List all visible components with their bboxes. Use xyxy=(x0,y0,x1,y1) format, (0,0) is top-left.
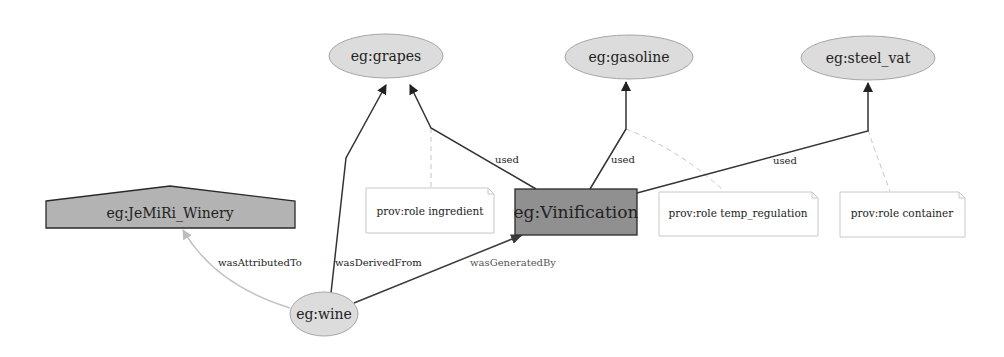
node-label-vinification: eg:Vinification xyxy=(514,202,639,222)
edge-label-was-attributed-to: wasAttributedTo xyxy=(218,257,302,268)
provenance-diagram: used used used wasDerivedFrom wasGenerat… xyxy=(0,0,1004,357)
edge-label-was-generated-by: wasGeneratedBy xyxy=(470,257,556,268)
note-temp-regulation: prov:role temp_regulation xyxy=(659,192,818,236)
edge-label-used-gasoline: used xyxy=(611,154,635,165)
node-label-gasoline: eg:gasoline xyxy=(588,49,669,65)
node-label-steel-vat: eg:steel_vat xyxy=(826,50,911,67)
node-vinification[interactable]: eg:Vinification xyxy=(514,189,639,235)
edge-used-grapes[interactable] xyxy=(410,85,536,189)
edge-label-used-steel-vat: used xyxy=(773,155,797,166)
node-steel-vat[interactable]: eg:steel_vat xyxy=(801,36,935,80)
note-label-ingredient: prov:role ingredient xyxy=(376,205,484,217)
edge-label-was-derived-from: wasDerivedFrom xyxy=(335,257,422,268)
note-ingredient: prov:role ingredient xyxy=(366,188,494,233)
edge-was-attributed-to[interactable] xyxy=(183,230,290,308)
edge-used-gasoline[interactable] xyxy=(590,82,626,189)
node-label-winery: eg:JeMiRi_Winery xyxy=(106,205,233,222)
note-connector-temp-regulation xyxy=(626,129,724,191)
node-gasoline[interactable]: eg:gasoline xyxy=(565,35,693,79)
edge-used-steel-vat[interactable] xyxy=(637,83,868,193)
note-label-container: prov:role container xyxy=(851,207,955,219)
node-wine[interactable]: eg:wine xyxy=(290,292,358,336)
node-winery[interactable]: eg:JeMiRi_Winery xyxy=(46,186,295,228)
note-container: prov:role container xyxy=(840,192,965,237)
edge-was-generated-by[interactable] xyxy=(354,235,522,303)
node-grapes[interactable]: eg:grapes xyxy=(329,34,443,78)
note-connector-container xyxy=(868,130,890,191)
note-label-temp-regulation: prov:role temp_regulation xyxy=(668,207,807,220)
node-label-grapes: eg:grapes xyxy=(351,48,421,64)
edge-label-used-grapes: used xyxy=(495,154,519,165)
node-label-wine: eg:wine xyxy=(296,306,352,322)
